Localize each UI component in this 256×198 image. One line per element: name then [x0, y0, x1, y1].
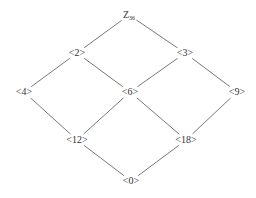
- node-z36-subscript: 36: [129, 15, 135, 21]
- node-4: <4>: [15, 87, 33, 97]
- node-6: <6>: [121, 87, 139, 97]
- edge-9-18: [193, 98, 231, 134]
- edge-4-12: [31, 98, 71, 134]
- edge-6-12: [84, 98, 124, 134]
- node-18: <18>: [174, 135, 197, 145]
- edge-3-6: [137, 58, 177, 87]
- edge-18-0: [138, 145, 179, 175]
- lattice-edges: [0, 0, 256, 198]
- edge-12-0: [84, 145, 124, 175]
- node-3: <3>: [176, 48, 194, 58]
- edge-2-4: [31, 58, 70, 86]
- edge-Z36-2: [84, 20, 121, 47]
- node-0: <0>: [122, 176, 140, 186]
- node-9: <9>: [228, 87, 246, 97]
- edge-2-6: [84, 58, 123, 86]
- node-2: <2>: [68, 48, 86, 58]
- edge-Z36-3: [136, 20, 177, 48]
- node-12: <12>: [65, 135, 88, 145]
- node-z36: Z36: [122, 10, 136, 21]
- edge-3-9: [192, 58, 230, 86]
- edge-6-18: [137, 98, 179, 134]
